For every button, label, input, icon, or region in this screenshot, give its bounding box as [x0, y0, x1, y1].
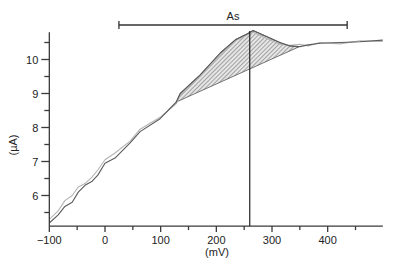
- chart-canvas: 678910−1000100200300400 As (mV) (µA): [0, 0, 395, 269]
- x-tick-label: 100: [151, 234, 169, 246]
- x-tick-label: −100: [37, 234, 62, 246]
- y-tick-label: 8: [32, 122, 38, 134]
- x-tick-label: 200: [207, 234, 225, 246]
- hatched-region: [176, 31, 298, 102]
- y-tick-label: 7: [32, 156, 38, 168]
- x-tick-label: 0: [102, 234, 108, 246]
- y-tick-label: 6: [32, 190, 38, 202]
- data-traces: [49, 31, 383, 223]
- y-tick-label: 9: [32, 88, 38, 100]
- as-bracket: [119, 21, 347, 29]
- y-axis-label: (µA): [7, 134, 19, 155]
- x-axis-label: (mV): [205, 246, 229, 258]
- x-tick-label: 400: [319, 234, 337, 246]
- axes: 678910−1000100200300400: [26, 32, 383, 246]
- x-tick-label: 300: [263, 234, 281, 246]
- shaded-area: [176, 31, 298, 102]
- y-tick-label: 10: [26, 54, 38, 66]
- bracket-label: As: [227, 10, 240, 22]
